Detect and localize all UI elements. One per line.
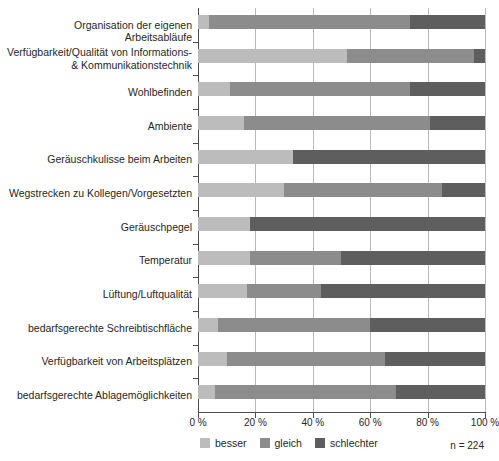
category-label: Temperatur — [6, 254, 192, 267]
category-label: Lüftung/Luftqualität — [6, 288, 192, 301]
category-label: Wegstrecken zu Kollegen/Vorgesetzten — [6, 187, 192, 200]
bar-segment-gleich — [347, 49, 473, 63]
chart-row — [198, 244, 485, 278]
category-label: Ambiente — [6, 120, 192, 133]
bar-segment-gleich — [215, 385, 396, 399]
chart-row — [198, 176, 485, 210]
stacked-bar — [198, 183, 485, 197]
x-axis-tick-label: 80 % — [416, 417, 439, 428]
bar-segment-schlechter — [430, 116, 485, 130]
legend-swatch-icon — [260, 438, 270, 448]
bar-segment-gleich — [227, 352, 385, 366]
stacked-bar — [198, 352, 485, 366]
gridline — [485, 8, 486, 412]
legend-swatch-icon — [315, 438, 325, 448]
chart-row — [198, 345, 485, 379]
chart-row — [198, 311, 485, 345]
y-axis-tick — [193, 143, 198, 144]
bar-segment-schlechter — [370, 318, 485, 332]
stacked-bar — [198, 49, 485, 63]
bar-segment-schlechter — [293, 150, 485, 164]
chart-row — [198, 277, 485, 311]
sample-size-label: n = 224 — [450, 440, 484, 451]
y-axis-tick — [193, 244, 198, 245]
x-axis-tick-label: 100 % — [471, 417, 499, 428]
x-axis-tick-label: 0 % — [189, 417, 206, 428]
chart-row — [198, 8, 485, 42]
legend-item-besser[interactable]: besser — [200, 437, 247, 449]
y-axis-tick — [193, 311, 198, 312]
bar-segment-besser — [198, 15, 209, 29]
bar-segment-gleich — [247, 284, 322, 298]
chart-row — [198, 75, 485, 109]
category-label: Organisation der eigenen Arbeitsabläufe — [6, 19, 192, 44]
bar-segment-besser — [198, 284, 247, 298]
x-axis-tick-label: 40 % — [301, 417, 324, 428]
bar-segment-schlechter — [410, 82, 485, 96]
stacked-bar — [198, 150, 485, 164]
bar-segment-besser — [198, 183, 284, 197]
bar-segment-besser — [198, 352, 227, 366]
legend-label: schlechter — [330, 437, 378, 449]
category-label: Geräuschpegel — [6, 221, 192, 234]
stacked-bar — [198, 116, 485, 130]
chart-row — [198, 210, 485, 244]
bar-segment-schlechter — [410, 15, 485, 29]
stacked-bar — [198, 251, 485, 265]
bar-segment-besser — [198, 150, 293, 164]
chart-legend: bessergleichschlechter — [200, 437, 378, 449]
stacked-bar — [198, 318, 485, 332]
chart-row — [198, 42, 485, 76]
bar-segment-besser — [198, 116, 244, 130]
bar-segment-schlechter — [250, 217, 485, 231]
category-label: Verfügbarkeit von Arbeitsplätzen — [6, 355, 192, 368]
bar-segment-besser — [198, 251, 250, 265]
legend-label: besser — [215, 437, 247, 449]
bar-segment-besser — [198, 49, 347, 63]
plot-area — [198, 8, 485, 412]
legend-item-gleich[interactable]: gleich — [260, 437, 302, 449]
stacked-bar — [198, 284, 485, 298]
y-axis-tick — [193, 277, 198, 278]
stacked-bar — [198, 82, 485, 96]
legend-label: gleich — [275, 437, 302, 449]
bar-segment-schlechter — [396, 385, 485, 399]
category-label: Wohlbefinden — [6, 86, 192, 99]
category-label: bedarfsgerechte Schreibtischfläche — [6, 322, 192, 335]
category-label: Verfügbarkeit/Qualität von Informations-… — [6, 46, 192, 71]
stacked-bar — [198, 385, 485, 399]
x-axis-line — [198, 412, 485, 413]
legend-item-schlechter[interactable]: schlechter — [315, 437, 378, 449]
bar-segment-schlechter — [385, 352, 485, 366]
y-axis-tick — [193, 75, 198, 76]
y-axis-tick — [193, 210, 198, 211]
category-label: Geräuschkulisse beim Arbeiten — [6, 153, 192, 166]
stacked-bar — [198, 217, 485, 231]
y-axis-tick — [193, 109, 198, 110]
bar-segment-schlechter — [321, 284, 485, 298]
bar-segment-gleich — [250, 251, 342, 265]
bar-segment-schlechter — [442, 183, 485, 197]
bar-segment-schlechter — [341, 251, 485, 265]
bar-segment-gleich — [218, 318, 370, 332]
bar-segment-gleich — [209, 15, 410, 29]
x-axis-tick-label: 20 % — [244, 417, 267, 428]
bar-segment-schlechter — [474, 49, 485, 63]
category-label: bedarfsgerechte Ablagemöglichkeiten — [6, 389, 192, 402]
bar-segment-gleich — [244, 116, 431, 130]
chart-row — [198, 378, 485, 412]
chart-row — [198, 109, 485, 143]
y-axis-tick — [193, 378, 198, 379]
bar-segment-besser — [198, 217, 250, 231]
x-axis-tick-label: 60 % — [359, 417, 382, 428]
y-axis-tick — [193, 176, 198, 177]
bar-segment-besser — [198, 318, 218, 332]
legend-swatch-icon — [200, 438, 210, 448]
stacked-bar — [198, 15, 485, 29]
chart-row — [198, 143, 485, 177]
y-axis-tick — [193, 42, 198, 43]
bar-segment-besser — [198, 385, 215, 399]
bar-segment-gleich — [284, 183, 442, 197]
bar-segment-gleich — [230, 82, 411, 96]
